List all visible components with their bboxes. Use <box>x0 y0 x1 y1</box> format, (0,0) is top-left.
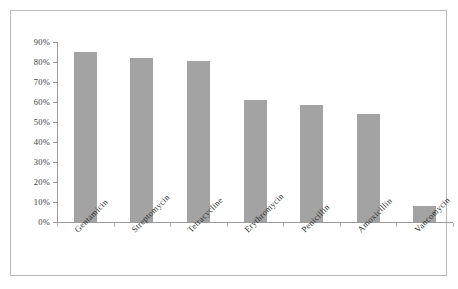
y-axis-tick-label: 70% <box>34 78 50 87</box>
x-axis-tick <box>170 223 171 227</box>
y-axis-tick <box>53 162 57 163</box>
y-axis-tick <box>53 82 57 83</box>
x-axis-tick <box>227 223 228 227</box>
y-axis-tick-label: 90% <box>34 38 50 47</box>
y-axis-tick <box>53 142 57 143</box>
y-axis-tick-label: 80% <box>34 58 50 67</box>
y-axis-line <box>57 42 58 223</box>
chart-frame: 0%10%20%30%40%50%60%70%80%90% Gentamicin… <box>10 10 447 276</box>
y-axis-tick <box>53 102 57 103</box>
plot-area: 0%10%20%30%40%50%60%70%80%90% Gentamicin… <box>57 42 453 222</box>
bar <box>130 58 153 222</box>
y-axis-tick <box>53 42 57 43</box>
y-axis-tick-label: 30% <box>34 158 50 167</box>
y-axis-tick-label: 60% <box>34 98 50 107</box>
chart-figure: 0%10%20%30%40%50%60%70%80%90% Gentamicin… <box>0 0 458 289</box>
bar <box>244 100 267 222</box>
y-axis-tick-label: 40% <box>34 138 50 147</box>
y-axis-tick <box>53 182 57 183</box>
bar <box>300 105 323 222</box>
x-axis-tick <box>114 223 115 227</box>
x-axis-tick <box>453 223 454 227</box>
y-axis-tick-label: 20% <box>34 178 50 187</box>
bar <box>187 61 210 222</box>
bar <box>74 52 97 222</box>
y-axis-tick <box>53 122 57 123</box>
x-axis-tick <box>396 223 397 227</box>
y-axis-tick <box>53 62 57 63</box>
x-axis-tick <box>340 223 341 227</box>
x-axis-tick <box>283 223 284 227</box>
x-axis-tick <box>57 223 58 227</box>
y-axis-tick-label: 50% <box>34 118 50 127</box>
y-axis-tick-label: 0% <box>38 218 50 227</box>
y-axis-tick <box>53 202 57 203</box>
y-axis-tick-label: 10% <box>34 198 50 207</box>
